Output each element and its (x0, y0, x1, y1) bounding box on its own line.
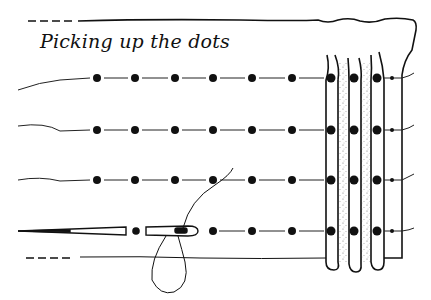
thread-rows (18, 73, 414, 231)
needle-icon (18, 226, 198, 236)
smocking-diagram: Picking up the dots (0, 0, 431, 300)
fabric-bottom-edge (26, 257, 326, 259)
illustration (0, 0, 431, 300)
fabric-top-edge (28, 18, 416, 75)
